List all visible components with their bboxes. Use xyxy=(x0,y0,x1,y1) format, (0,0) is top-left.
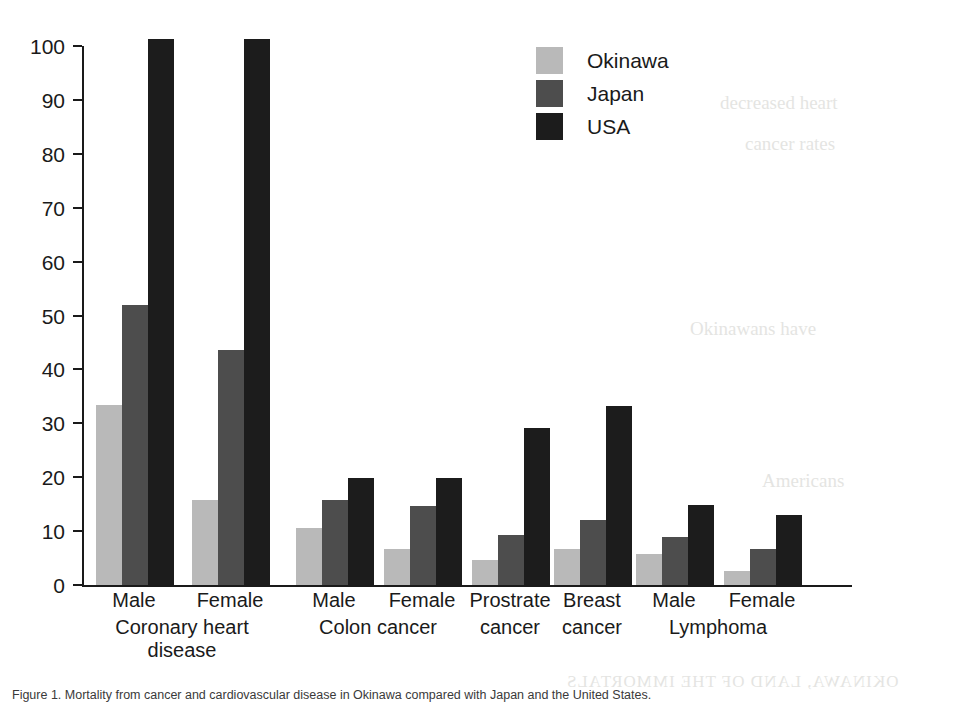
bar xyxy=(296,528,322,585)
y-tick: 10 xyxy=(73,530,82,532)
x-group-sublabel: Male xyxy=(112,590,155,610)
y-tick: 30 xyxy=(73,422,82,424)
legend-item-japan: Japan xyxy=(536,77,766,110)
x-group-sublabel: Prostrate xyxy=(469,590,550,610)
bar xyxy=(122,305,148,585)
bar xyxy=(636,554,662,585)
bar xyxy=(384,549,410,585)
x-group-sublabel: Female xyxy=(197,590,264,610)
x-axis-labels: MaleFemaleMaleFemaleProstrateBreastMaleF… xyxy=(82,590,852,670)
bar xyxy=(776,515,802,585)
y-tick: 70 xyxy=(73,207,82,209)
y-tick-label: 0 xyxy=(53,575,65,596)
x-group-label: Colon cancer xyxy=(319,616,437,639)
legend-swatch-icon xyxy=(536,80,563,107)
y-tick: 40 xyxy=(73,368,82,370)
y-tick: 80 xyxy=(73,153,82,155)
y-tick: 90 xyxy=(73,99,82,101)
x-group-label: cancer xyxy=(480,616,540,639)
x-group-sublabel: Male xyxy=(652,590,695,610)
y-tick-label: 80 xyxy=(42,143,65,164)
y-tick-label: 10 xyxy=(42,521,65,542)
y-tick: 0 xyxy=(73,584,82,586)
bar xyxy=(348,478,374,585)
y-tick-label: 90 xyxy=(42,89,65,110)
bar xyxy=(410,506,436,585)
y-tick-label: 50 xyxy=(42,305,65,326)
y-tick-label: 30 xyxy=(42,413,65,434)
bar xyxy=(662,537,688,585)
legend-swatch-icon xyxy=(536,113,563,140)
legend: OkinawaJapanUSA xyxy=(536,44,766,143)
bar xyxy=(322,500,348,585)
bar xyxy=(244,39,270,585)
bar xyxy=(688,505,714,585)
bar xyxy=(724,571,750,585)
legend-item-usa: USA xyxy=(536,110,766,143)
x-group-sublabel: Male xyxy=(312,590,355,610)
bar xyxy=(606,406,632,585)
y-tick-label: 70 xyxy=(42,197,65,218)
x-group-sublabel: Breast xyxy=(563,590,621,610)
legend-item-okinawa: Okinawa xyxy=(536,44,766,77)
legend-swatch-icon xyxy=(536,47,563,74)
x-group-label: Lymphoma xyxy=(669,616,767,639)
bar xyxy=(554,549,580,585)
x-group-sublabel: Female xyxy=(729,590,796,610)
figure-caption: Figure 1. Mortality from cancer and card… xyxy=(12,688,942,704)
x-group-label: Coronary heart disease xyxy=(115,616,248,662)
x-group-label: cancer xyxy=(562,616,622,639)
bar xyxy=(498,535,524,585)
y-tick-label: 100 xyxy=(30,36,65,57)
y-tick-label: 60 xyxy=(42,251,65,272)
bar xyxy=(580,520,606,585)
y-tick-label: 40 xyxy=(42,359,65,380)
legend-label: USA xyxy=(587,116,630,137)
legend-label: Okinawa xyxy=(587,50,669,71)
y-tick: 50 xyxy=(73,315,82,317)
bar xyxy=(218,350,244,585)
legend-label: Japan xyxy=(587,83,644,104)
bar xyxy=(472,560,498,585)
bar xyxy=(524,428,550,585)
y-tick-label: 20 xyxy=(42,467,65,488)
y-tick: 100 xyxy=(73,45,82,47)
y-tick: 20 xyxy=(73,476,82,478)
chart-figure: decreased heart cancer rates Okinawans h… xyxy=(0,0,953,705)
bar xyxy=(436,478,462,585)
bar xyxy=(192,500,218,585)
bar xyxy=(96,405,122,585)
bar xyxy=(148,39,174,585)
bar xyxy=(750,549,776,585)
y-tick: 60 xyxy=(73,261,82,263)
x-group-sublabel: Female xyxy=(389,590,456,610)
